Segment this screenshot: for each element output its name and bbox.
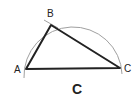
triangle-diagram: A B C C (0, 0, 136, 98)
triangle-abc (26, 25, 120, 69)
vertex-label-b: B (47, 8, 54, 19)
circumcircle-arc (24, 27, 122, 78)
caption: C (72, 81, 82, 97)
vertex-label-c: C (124, 63, 131, 74)
vertex-label-a: A (14, 64, 21, 75)
